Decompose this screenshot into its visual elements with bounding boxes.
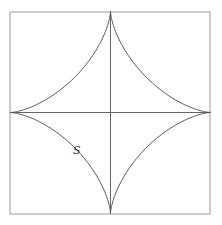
astroid-diagram: S: [0, 0, 222, 225]
region-label-s: S: [73, 144, 81, 157]
